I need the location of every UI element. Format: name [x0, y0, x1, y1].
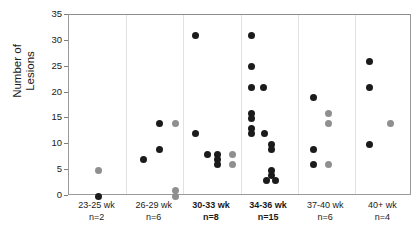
data-point	[172, 120, 179, 127]
data-point	[310, 146, 317, 153]
chart-figure: Number of Lesions 05101520253035 23-25 w…	[0, 0, 420, 239]
data-point	[192, 130, 199, 137]
group-separator	[183, 15, 184, 194]
y-tick-label-25: 25	[32, 60, 62, 71]
group-separator	[355, 15, 356, 194]
data-point	[325, 161, 332, 168]
data-point	[204, 151, 211, 158]
data-point	[366, 58, 373, 65]
data-point	[229, 161, 236, 168]
data-point	[248, 63, 255, 70]
data-point	[214, 161, 221, 168]
data-point	[325, 110, 332, 117]
data-point	[248, 115, 255, 122]
data-point	[140, 156, 147, 163]
data-point	[310, 94, 317, 101]
data-point	[95, 193, 102, 200]
group-separator	[241, 15, 242, 194]
data-point	[366, 84, 373, 91]
data-point	[260, 84, 267, 91]
data-point	[192, 32, 199, 39]
data-point	[248, 32, 255, 39]
data-point	[387, 120, 394, 127]
y-tick-label-20: 20	[32, 86, 62, 97]
data-point	[156, 146, 163, 153]
plot-area	[68, 14, 411, 195]
data-point	[248, 130, 255, 137]
data-point	[272, 177, 279, 184]
y-tick-label-10: 10	[32, 137, 62, 148]
group-separator	[298, 15, 299, 194]
y-tick-label-30: 30	[32, 34, 62, 45]
x-label-category: 40+ wk	[347, 200, 417, 212]
data-point	[95, 167, 102, 174]
y-tick-mark-0	[64, 195, 68, 196]
data-point	[248, 84, 255, 91]
y-tick-label-15: 15	[32, 111, 62, 122]
y-tick-label-5: 5	[32, 163, 62, 174]
clipped-title	[150, 0, 310, 1]
data-point	[229, 151, 236, 158]
data-point	[261, 130, 268, 137]
data-point	[172, 193, 179, 200]
data-point	[366, 141, 373, 148]
data-point	[263, 177, 270, 184]
y-tick-label-0: 0	[32, 189, 62, 200]
y-tick-label-35: 35	[32, 8, 62, 19]
data-point	[268, 146, 275, 153]
data-point	[310, 161, 317, 168]
group-separator	[126, 15, 127, 194]
data-point	[156, 120, 163, 127]
data-point	[325, 120, 332, 127]
x-label-count: n=4	[347, 212, 417, 224]
x-axis-group-label-6: 40+ wkn=4	[347, 200, 417, 223]
